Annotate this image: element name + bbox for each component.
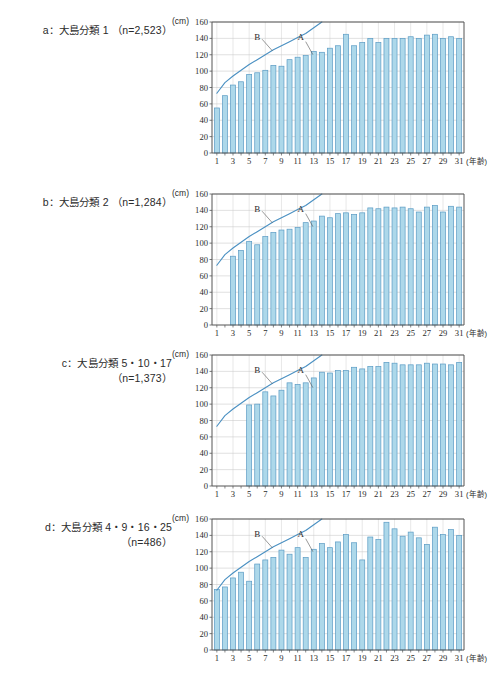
x-axis-tick-label: 11 [293,156,301,166]
bar [263,70,268,153]
x-axis-tick-label: 21 [374,328,383,338]
bar [271,232,276,325]
x-axis-tick-label: 29 [439,328,448,338]
bar [408,37,413,153]
y-axis-tick-label: 160 [195,189,208,199]
y-axis-tick-label: 100 [195,66,208,76]
panel-c-caption-line1: c：大島分類 5・10・17 [62,357,172,369]
bar [360,213,365,325]
bar [303,383,308,486]
bar [230,578,235,650]
y-axis-tick-label: 0 [204,148,208,158]
panel-d-caption-line1: d：大島分類 4・9・16・25 [45,521,172,533]
series-label-b: B [254,32,260,42]
bar [222,96,227,153]
y-axis-tick-label: 160 [195,17,208,27]
bar [424,544,429,650]
y-axis-tick-label: 80 [199,416,208,426]
growth-chart-figure: a：大島分類 1 （n=2,523） (cm) 0204060801001201… [0,0,502,689]
x-axis-tick-label: 13 [309,653,318,663]
bar [327,373,332,486]
panel-c-caption-line2: （n=1,373） [0,371,172,386]
series-label-b: B [254,529,260,539]
bar [311,378,316,486]
bar [319,216,324,325]
bar [392,38,397,153]
x-axis-unit-label: (年齢) [466,328,488,338]
x-axis-tick-label: 25 [406,489,415,499]
bar [408,365,413,486]
bar [327,48,332,153]
x-axis-tick-label: 23 [390,328,399,338]
bar [440,535,445,650]
bar [416,212,421,325]
bar [319,544,324,650]
bar [319,52,324,153]
x-axis-tick-label: 13 [309,489,318,499]
y-axis-tick-label: 120 [195,547,208,557]
y-axis-tick-label: 120 [195,50,208,60]
y-axis-tick-label: 20 [199,132,208,142]
bar [408,532,413,650]
bar [295,228,300,325]
x-axis-tick-label: 19 [358,653,367,663]
y-axis-tick-label: 40 [199,448,208,458]
x-axis-tick-label: 3 [231,489,235,499]
bar [457,207,462,325]
y-axis-tick-label: 80 [199,255,208,265]
bar [279,550,284,650]
y-axis-tick-label: 60 [199,596,208,606]
bar [255,245,260,325]
bar [352,214,357,325]
bar [335,371,340,486]
bar [449,206,454,325]
bar [303,56,308,153]
bar [457,362,462,486]
x-axis-tick-label: 3 [231,328,235,338]
bar [376,209,381,325]
x-axis-tick-label: 1 [215,653,219,663]
x-axis-tick-label: 17 [342,489,351,499]
y-axis-tick-label: 160 [195,350,208,360]
panel-b-chart: (cm) 020406080100120140160BA135791113151… [172,180,502,345]
bar [416,538,421,650]
bar [408,209,413,325]
x-axis-tick-label: 7 [263,489,268,499]
panel-a-plot: 020406080100120140160BA13579111315171921… [172,8,502,173]
bar [263,392,268,486]
x-axis-tick-label: 15 [326,653,335,663]
bar [295,548,300,650]
leader-line-a [306,42,313,55]
panel-d-chart: (cm) 020406080100120140160BA135791113151… [172,505,502,670]
x-axis-tick-label: 17 [342,328,351,338]
series-label-b: B [254,204,260,214]
leader-line-b [262,372,272,384]
panel-d-caption: d：大島分類 4・9・16・25 （n=486） [0,505,172,565]
bar [327,218,332,325]
x-axis-tick-label: 15 [326,489,335,499]
x-axis-tick-label: 23 [390,156,399,166]
x-axis-tick-label: 21 [374,653,383,663]
bar [279,390,284,486]
y-axis-tick-label: 80 [199,580,208,590]
x-axis-tick-label: 3 [231,653,235,663]
bar [440,38,445,153]
y-axis-tick-label: 140 [195,205,208,215]
y-axis-tick-label: 120 [195,383,208,393]
y-axis-tick-label: 160 [195,514,208,524]
bar [449,530,454,650]
x-axis-tick-label: 23 [390,653,399,663]
bar [384,362,389,486]
panel-c-caption: c：大島分類 5・10・17 （n=1,373） [0,341,172,401]
x-axis-tick-label: 21 [374,156,383,166]
panel-b-caption-line1: b：大島分類 2 （n=1,284） [43,196,172,208]
leader-line-b [262,536,272,548]
bar [311,549,316,650]
x-axis-tick-label: 5 [247,156,251,166]
bar [335,46,340,153]
x-axis-tick-label: 15 [326,156,335,166]
x-axis-tick-label: 27 [423,489,432,499]
bar [376,539,381,650]
y-axis-tick-label: 100 [195,563,208,573]
bar [360,42,365,153]
